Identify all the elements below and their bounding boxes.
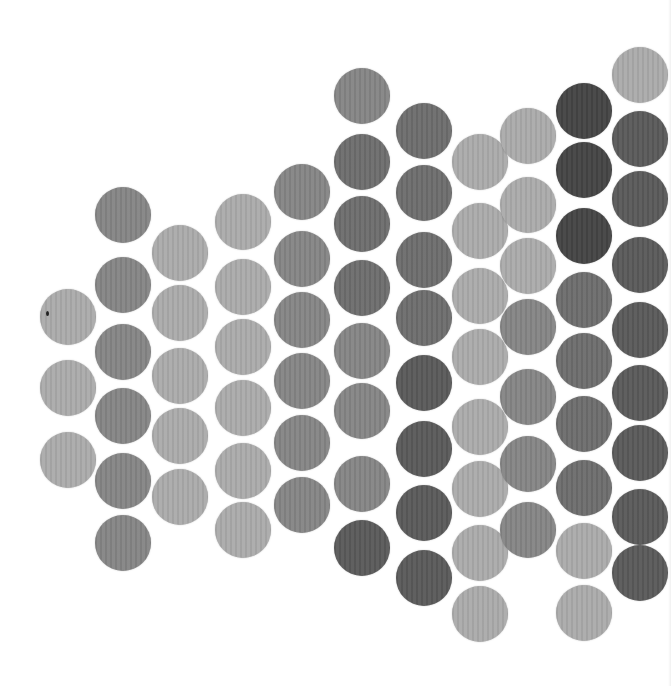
circle-dot bbox=[612, 111, 668, 167]
circle-dot bbox=[556, 396, 612, 452]
circle-dot bbox=[396, 165, 452, 221]
circle-dot bbox=[334, 134, 390, 190]
circle-dot bbox=[152, 285, 208, 341]
circle-dot bbox=[452, 134, 508, 190]
circle-dot bbox=[95, 324, 151, 380]
circle-dot bbox=[396, 421, 452, 477]
circle-dot bbox=[215, 319, 271, 375]
circle-dot bbox=[334, 323, 390, 379]
circle-dot bbox=[556, 523, 612, 579]
circle-dot bbox=[334, 260, 390, 316]
circle-dot bbox=[452, 268, 508, 324]
speck-mark bbox=[46, 311, 49, 316]
circle-dot bbox=[215, 380, 271, 436]
circle-dot bbox=[500, 177, 556, 233]
circle-dot bbox=[40, 360, 96, 416]
circle-dot bbox=[334, 383, 390, 439]
circle-dot bbox=[612, 365, 668, 421]
circle-dot bbox=[612, 545, 668, 601]
circle-dot bbox=[612, 237, 668, 293]
circle-dot bbox=[334, 456, 390, 512]
circle-dot bbox=[215, 194, 271, 250]
circle-dot bbox=[396, 232, 452, 288]
circle-dot bbox=[612, 425, 668, 481]
circle-dot bbox=[500, 369, 556, 425]
dot-pattern-canvas bbox=[0, 0, 671, 686]
circle-dot bbox=[556, 83, 612, 139]
circle-dot bbox=[612, 171, 668, 227]
circle-dot bbox=[274, 415, 330, 471]
circle-dot bbox=[334, 68, 390, 124]
circle-dot bbox=[95, 257, 151, 313]
circle-dot bbox=[500, 299, 556, 355]
circle-dot bbox=[152, 408, 208, 464]
circle-dot bbox=[215, 443, 271, 499]
circle-dot bbox=[274, 292, 330, 348]
circle-dot bbox=[40, 432, 96, 488]
circle-dot bbox=[152, 348, 208, 404]
circle-dot bbox=[152, 469, 208, 525]
circle-dot bbox=[215, 259, 271, 315]
circle-dot bbox=[500, 238, 556, 294]
circle-dot bbox=[334, 196, 390, 252]
circle-dot bbox=[556, 585, 612, 641]
circle-dot bbox=[40, 289, 96, 345]
circle-dot bbox=[274, 353, 330, 409]
circle-dot bbox=[274, 231, 330, 287]
circle-dot bbox=[396, 103, 452, 159]
circle-dot bbox=[215, 502, 271, 558]
circle-dot bbox=[274, 164, 330, 220]
circle-dot bbox=[612, 302, 668, 358]
circle-dot bbox=[396, 355, 452, 411]
circle-dot bbox=[396, 485, 452, 541]
circle-dot bbox=[556, 333, 612, 389]
circle-dot bbox=[556, 142, 612, 198]
circle-dot bbox=[95, 453, 151, 509]
circle-dot bbox=[396, 550, 452, 606]
circle-dot bbox=[556, 272, 612, 328]
circle-dot bbox=[95, 515, 151, 571]
circle-dot bbox=[500, 436, 556, 492]
circle-dot bbox=[396, 290, 452, 346]
circle-dot bbox=[556, 460, 612, 516]
circle-dot bbox=[612, 47, 668, 103]
circle-dot bbox=[452, 203, 508, 259]
circle-dot bbox=[95, 388, 151, 444]
circle-dot bbox=[334, 520, 390, 576]
circle-dot bbox=[452, 586, 508, 642]
circle-dot bbox=[452, 329, 508, 385]
circle-dot bbox=[556, 208, 612, 264]
circle-dot bbox=[95, 187, 151, 243]
circle-dot bbox=[500, 502, 556, 558]
circle-dot bbox=[152, 225, 208, 281]
circle-dot bbox=[500, 108, 556, 164]
circle-dot bbox=[452, 399, 508, 455]
circle-dot bbox=[612, 489, 668, 545]
circle-dot bbox=[274, 477, 330, 533]
